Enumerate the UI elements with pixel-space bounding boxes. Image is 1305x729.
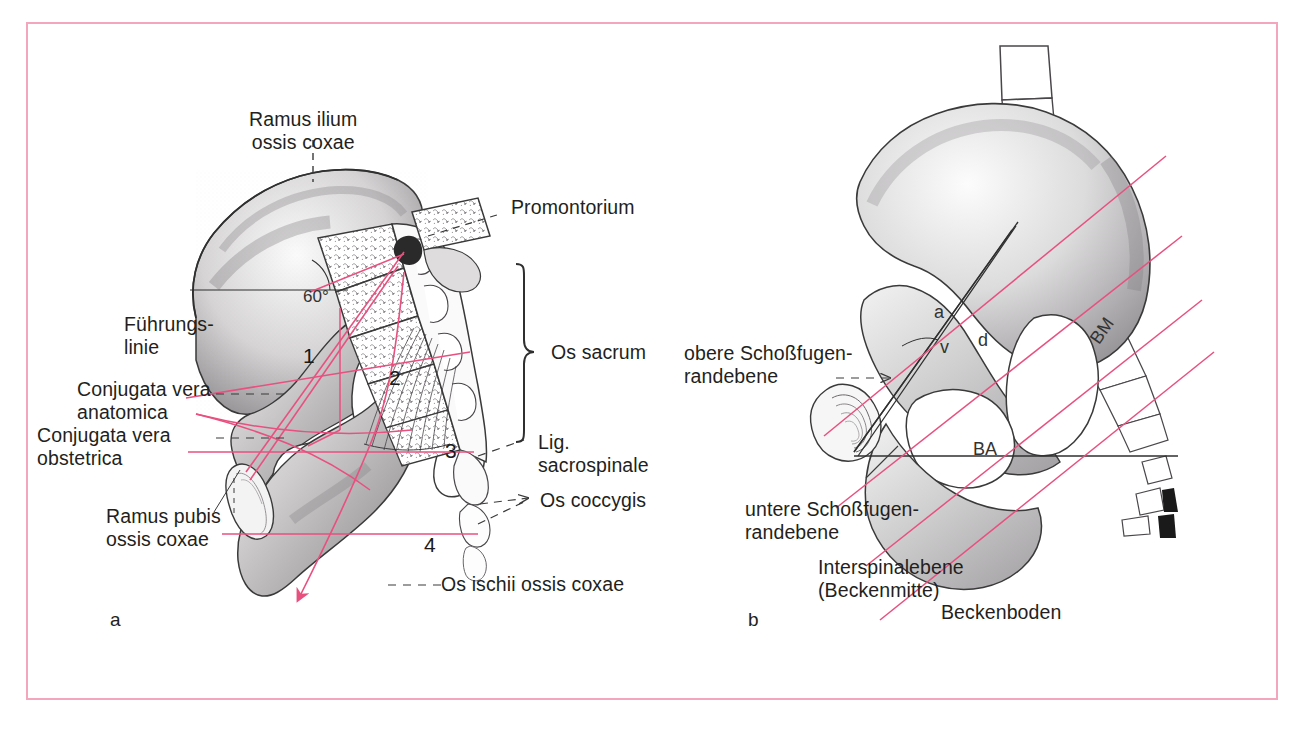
callout-number-4: 4 [424,533,436,557]
os-coccygis [454,450,490,581]
mark-diameter-d: d [978,330,988,351]
label-promontorium: Promontorium [511,196,635,219]
panel-a-illustration [186,140,534,600]
label-os-sacrum: Os sacrum [551,341,646,364]
callout-number-2: 2 [389,366,401,390]
label-conjugata-vera-anatomica: Conjugata vera anatomica [77,378,211,424]
label-beckenboden: Beckenboden [941,601,1061,624]
callout-number-1: 1 [303,344,315,368]
panel-letter-b: b [748,609,759,631]
mark-diameter-v: v [940,337,949,358]
label-os-ischii: Os ischii ossis coxae [441,573,624,596]
os-sacrum-brace [516,264,534,442]
anatomical-drawing [0,0,1305,729]
figure-canvas: Ramus ilium ossis coxae Promontorium Os … [0,0,1305,729]
symphysis-pubis-b [810,384,881,461]
mark-diameter-a: a [934,302,944,323]
label-untere-schossfugenrandebene: untere Schoßfugen- randebene [745,498,919,544]
label-conjugata-vera-obstetrica: Conjugata vera obstetrica [37,424,171,470]
callout-number-3: 3 [445,439,457,463]
panel-letter-a: a [110,609,121,631]
sciatic-notch-b [1006,315,1098,456]
mark-BA: BA [973,439,997,460]
label-obere-schossfugenrandebene: obere Schoßfugen- randebene [684,342,853,388]
label-ramus-ilium: Ramus ilium ossis coxae [249,108,357,154]
label-ramus-pubis: Ramus pubis ossis coxae [106,505,221,551]
label-os-coccygis: Os coccygis [540,489,646,512]
label-fuehrungslinie: Führungs- linie [124,313,214,359]
label-angle-60: 60° [303,287,329,307]
label-lig-sacrospinale: Lig. sacrospinale [538,431,649,477]
label-interspinalebene: Interspinalebene (Beckenmitte) [818,556,964,602]
